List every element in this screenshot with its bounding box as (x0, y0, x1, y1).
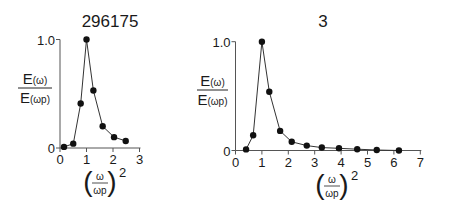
data-point (336, 145, 342, 151)
y-tick-label: 1.0 (37, 33, 55, 48)
y-tick-label: 1.0 (212, 35, 230, 50)
svg-text:): ) (339, 169, 348, 200)
data-point (354, 146, 360, 152)
svg-text:ωp: ωp (93, 185, 107, 196)
data-point (304, 142, 310, 148)
data-point (77, 100, 83, 106)
x-tick-label: 2 (285, 155, 292, 170)
data-point (289, 139, 295, 145)
data-point (243, 146, 249, 152)
x-tick-label: 3 (136, 152, 143, 167)
svg-text:ωp: ωp (325, 188, 339, 199)
series-line (246, 42, 399, 151)
chart-panel-right: 301.001234567E(ω)E(ωp)(ωωp)2 (197, 12, 424, 200)
svg-text:2: 2 (119, 165, 126, 180)
data-point (123, 138, 129, 144)
svg-text:2: 2 (351, 168, 358, 183)
x-tick-label: 5 (364, 155, 371, 170)
data-point (90, 87, 96, 93)
data-point (250, 132, 256, 138)
y-axis-label: E(ω)E(ωp) (18, 70, 52, 106)
data-point (99, 123, 105, 129)
y-axis-label: E(ω)E(ωp) (197, 72, 228, 108)
svg-text:E(ωp): E(ωp) (20, 89, 50, 106)
figure: 29617501.00123E(ω)E(ωp)(ωωp)2 301.001234… (0, 0, 449, 215)
x-tick-label: 2 (109, 152, 116, 167)
x-axis-label: (ωωp)2 (83, 165, 126, 197)
x-tick-label: 0 (232, 155, 239, 170)
data-point (70, 140, 76, 146)
svg-text:): ) (107, 166, 116, 197)
y-tick-label: 0 (223, 144, 230, 159)
x-axis-label: (ωωp)2 (315, 168, 358, 200)
svg-text:E(ωp): E(ωp) (197, 91, 227, 108)
x-tick-label: 7 (417, 155, 424, 170)
chart-title: 296175 (82, 12, 139, 31)
chart-canvas: 29617501.00123E(ω)E(ωp)(ωωp)2 301.001234… (0, 0, 449, 215)
data-point (319, 144, 325, 150)
svg-text:(: ( (83, 166, 93, 197)
x-tick-label: 1 (83, 152, 90, 167)
x-tick-label: 6 (390, 155, 397, 170)
data-point (277, 128, 283, 134)
data-point (61, 144, 67, 150)
x-tick-label: 0 (56, 152, 63, 167)
data-point (396, 147, 402, 153)
y-tick-label: 0 (48, 141, 55, 156)
data-point (374, 147, 380, 153)
data-point (259, 39, 265, 45)
x-tick-label: 1 (258, 155, 265, 170)
data-point (83, 36, 89, 42)
svg-text:ω: ω (328, 174, 336, 185)
data-point (266, 89, 272, 95)
svg-text:(: ( (315, 169, 325, 200)
chart-panel-left: 29617501.00123E(ω)E(ωp)(ωωp)2 (18, 12, 143, 197)
chart-title: 3 (318, 12, 327, 31)
svg-text:E(ω): E(ω) (23, 70, 47, 87)
svg-text:ω: ω (96, 171, 104, 182)
x-tick-label: 4 (337, 155, 344, 170)
svg-text:E(ω): E(ω) (200, 72, 224, 89)
data-point (111, 134, 117, 140)
x-tick-label: 3 (311, 155, 318, 170)
